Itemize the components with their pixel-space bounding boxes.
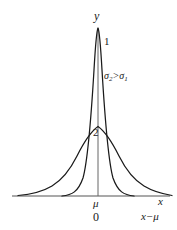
curve-1-label: 1 xyxy=(104,36,110,47)
normal-distribution-figure: y 1 σ2>σ1 2 μ 0 x x−μ xyxy=(0,0,177,230)
x-axis-label: x xyxy=(158,196,163,207)
x-axis-secondary-label: x−μ xyxy=(141,211,159,222)
y-axis-label: y xyxy=(94,10,99,22)
origin-zero-label: 0 xyxy=(93,211,99,223)
origin-mu-label: μ xyxy=(93,198,99,209)
sigma-1-subscript: 1 xyxy=(124,75,128,83)
sigma-relation-label: σ2>σ1 xyxy=(104,71,128,81)
curve-2-label: 2 xyxy=(93,127,99,138)
plot-area xyxy=(0,0,177,230)
sigma-2-subscript: 2 xyxy=(109,75,113,83)
